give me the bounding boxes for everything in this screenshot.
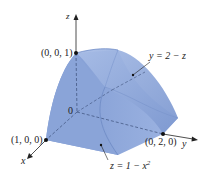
z-axis-arrow-icon <box>74 14 79 20</box>
y-axis-arrow-icon <box>192 137 199 142</box>
point-1-0-0 <box>44 138 48 142</box>
equation-exponent: 2 <box>147 159 151 167</box>
point-label-0-0-1: (0, 0, 1) <box>41 48 73 58</box>
point-label-1-0-0: (1, 0, 0) <box>11 135 43 145</box>
surface-label-y-eq-2-minus-z: y = 2 − z <box>149 51 186 61</box>
point-0-0-1 <box>74 51 78 55</box>
z-axis-label: z <box>66 12 70 21</box>
x-axis-label: x <box>21 156 25 166</box>
origin-label: 0 <box>68 106 73 116</box>
surface-label-z-eq-1-minus-x2: z = 1 − x2 <box>110 160 150 171</box>
point-label-0-2-0: (0, 2, 0) <box>145 137 177 147</box>
y-axis-label: y <box>182 139 186 149</box>
solid-diagram <box>0 0 210 180</box>
equation-text: z = 1 − x <box>110 160 147 171</box>
